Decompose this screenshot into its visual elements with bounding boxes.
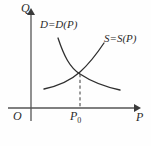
x-axis-label: P [136, 111, 143, 123]
supply-demand-figure: Q P O D=D(P) S=S(P) P0 [0, 0, 151, 146]
demand-curve-label: D=D(P) [40, 19, 77, 30]
equilibrium-price-label: P0 [70, 110, 81, 125]
origin-label: O [13, 110, 22, 122]
equilibrium-price-subscript: 0 [77, 116, 81, 125]
demand-curve [58, 38, 120, 90]
supply-curve-label: S=S(P) [104, 33, 136, 44]
y-axis-label: Q [21, 2, 30, 14]
